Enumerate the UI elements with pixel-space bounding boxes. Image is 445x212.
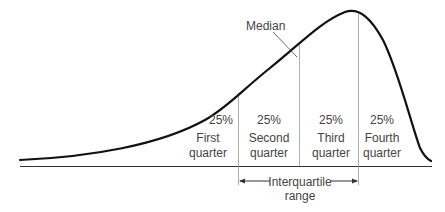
median-pointer (273, 32, 297, 57)
q2-label-line2: quarter (250, 146, 288, 160)
q4-label-line1: Fourth (365, 131, 400, 145)
q3-label-line2: quarter (312, 146, 350, 160)
q2-percent: 25% (257, 113, 281, 127)
q1-label-line2: quarter (189, 146, 227, 160)
median-label: Median (246, 19, 285, 33)
distribution-diagram: Median 25% First quarter 25% Second quar… (0, 0, 445, 212)
iqr-label-line1: Interquartile (268, 175, 332, 189)
q4-percent: 25% (370, 113, 394, 127)
iqr-label-line2: range (285, 189, 316, 203)
iqr-arrowhead-left-icon (239, 179, 245, 184)
iqr-arrowhead-right-icon (352, 179, 358, 184)
q1-label-line1: First (196, 131, 220, 145)
q3-percent: 25% (319, 113, 343, 127)
q1-percent: 25% (209, 113, 233, 127)
q3-label-line1: Third (317, 131, 344, 145)
q4-label-line2: quarter (363, 146, 401, 160)
q2-label-line1: Second (249, 131, 290, 145)
